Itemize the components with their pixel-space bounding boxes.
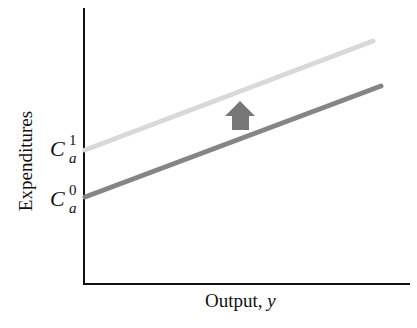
c1-sup: 1 <box>69 132 77 149</box>
c0-sub: a <box>69 200 77 217</box>
intercept-label-c0: C0a <box>50 186 65 212</box>
expenditure-line-c1 <box>85 41 373 150</box>
c1-base: C <box>50 136 65 161</box>
x-axis-label: Output, y <box>0 290 417 312</box>
c0-sup: 0 <box>69 182 77 199</box>
y-axis-label: Expenditures <box>15 101 37 221</box>
expenditure-line-c0 <box>85 86 381 197</box>
x-axis-label-text: Output, <box>205 290 267 311</box>
x-axis-label-var: y <box>267 290 275 311</box>
intercept-label-c1: C1a <box>50 136 65 162</box>
chart-canvas <box>0 0 417 328</box>
shift-up-arrow-icon <box>225 101 255 130</box>
c0-base: C <box>50 186 65 211</box>
c1-sub: a <box>69 150 77 167</box>
